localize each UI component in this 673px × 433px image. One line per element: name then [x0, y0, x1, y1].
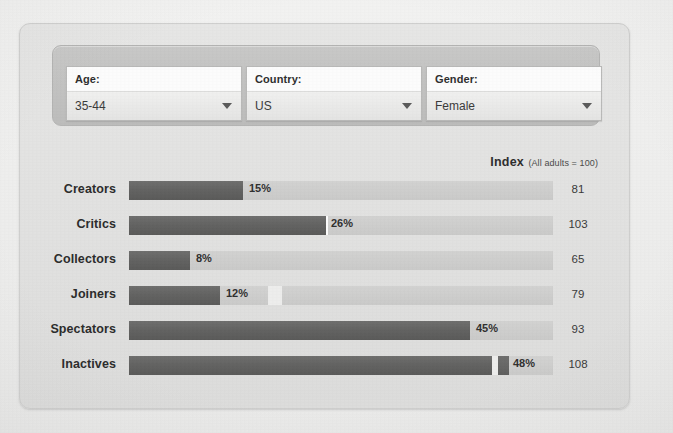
filter-label-age: Age:	[67, 67, 241, 91]
index-header-title: Index	[490, 155, 524, 169]
filter-value-age: 35-44	[75, 99, 106, 113]
chevron-down-icon[interactable]	[402, 103, 412, 109]
index-value: 103	[558, 218, 598, 230]
bar-fill	[129, 251, 190, 270]
filter-select-country[interactable]: US	[247, 91, 421, 120]
bar-value-label: 26%	[331, 217, 353, 229]
bar-row-label: Spectators	[20, 322, 116, 336]
bar-row-label: Inactives	[20, 357, 116, 371]
bar-fill	[129, 181, 243, 200]
index-value: 65	[558, 253, 598, 265]
index-value: 81	[558, 183, 598, 195]
bar-end-tick	[326, 216, 328, 235]
chevron-down-icon[interactable]	[222, 103, 232, 109]
bar-row: Inactives48%108	[20, 351, 629, 386]
bar-track	[129, 251, 553, 270]
bar-end-stub	[498, 356, 509, 375]
bar-fill	[129, 286, 220, 305]
bar-fill	[129, 321, 470, 340]
bar-chart: Creators15%81Critics26%103Collectors8%65…	[20, 176, 629, 386]
bar-row: Joiners12%79	[20, 281, 629, 316]
index-value: 93	[558, 323, 598, 335]
chevron-down-icon[interactable]	[582, 103, 592, 109]
filter-select-age[interactable]: 35-44	[67, 91, 241, 120]
bar-track	[129, 181, 553, 200]
filter-select-gender[interactable]: Female	[427, 91, 601, 120]
screenshot-root: Age: 35-44 Country: US Gender: Female	[0, 0, 673, 433]
filter-group-age[interactable]: Age: 35-44	[66, 66, 242, 121]
index-header-note: (All adults = 100)	[528, 158, 598, 168]
bar-row: Spectators45%93	[20, 316, 629, 351]
bar-row-label: Joiners	[20, 287, 116, 301]
index-value: 79	[558, 288, 598, 300]
bar-row: Creators15%81	[20, 176, 629, 211]
bar-row: Collectors8%65	[20, 246, 629, 281]
filter-group-country[interactable]: Country: US	[246, 66, 422, 121]
bar-fill	[129, 356, 492, 375]
report-card: Age: 35-44 Country: US Gender: Female	[19, 23, 630, 409]
bar-value-label: 12%	[226, 287, 248, 299]
filter-panel: Age: 35-44 Country: US Gender: Female	[52, 45, 600, 126]
bar-value-label: 8%	[196, 252, 212, 264]
filter-value-country: US	[255, 99, 272, 113]
bar-row-label: Collectors	[20, 252, 116, 266]
index-value: 108	[558, 358, 598, 370]
bar-row-label: Critics	[20, 217, 116, 231]
bar-value-label: 48%	[513, 357, 535, 369]
filter-label-country: Country:	[247, 67, 421, 91]
bar-track	[129, 286, 553, 305]
bar-track-gap	[268, 286, 282, 305]
filter-group-gender[interactable]: Gender: Female	[426, 66, 602, 121]
filter-label-gender: Gender:	[427, 67, 601, 91]
bar-value-label: 45%	[476, 322, 498, 334]
filter-value-gender: Female	[435, 99, 475, 113]
bar-value-label: 15%	[249, 182, 271, 194]
bar-fill	[129, 216, 326, 235]
index-column-header: Index (All adults = 100)	[490, 152, 598, 170]
bar-track	[129, 356, 553, 375]
bar-row: Critics26%103	[20, 211, 629, 246]
bar-row-label: Creators	[20, 182, 116, 196]
